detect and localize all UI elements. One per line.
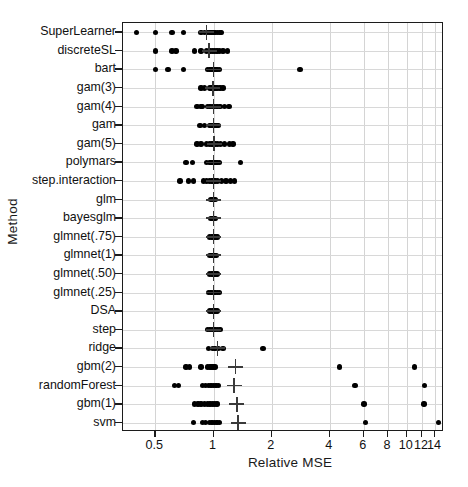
data-point <box>421 401 426 406</box>
data-point <box>183 160 188 165</box>
grid-line-vertical <box>272 23 273 430</box>
data-point <box>238 160 243 165</box>
mean-marker <box>205 81 220 96</box>
data-point <box>232 178 237 183</box>
x-axis-ticks: 0.512468101214 <box>122 431 443 457</box>
x-axis-tick <box>406 431 407 437</box>
data-point <box>230 141 235 146</box>
mean-marker <box>206 322 221 337</box>
relative-mse-dotplot: Method Relative MSE SuperLearnerdiscrete… <box>0 0 468 487</box>
y-axis-tick <box>115 50 122 51</box>
grid-line-horizontal <box>123 125 442 126</box>
grid-line-horizontal <box>123 181 442 182</box>
data-point <box>212 364 217 369</box>
y-axis-tick <box>115 254 122 255</box>
data-point <box>361 401 366 406</box>
mean-marker <box>206 229 221 244</box>
data-point <box>134 30 139 35</box>
x-axis-tick-label: 8 <box>383 438 390 452</box>
data-point <box>216 383 221 388</box>
data-point <box>153 67 158 72</box>
mean-marker <box>206 62 221 77</box>
y-axis-tick <box>115 347 122 348</box>
x-axis-tick <box>329 431 330 437</box>
data-point <box>177 178 182 183</box>
mean-marker <box>229 397 244 412</box>
mean-marker <box>228 359 243 374</box>
plot-area <box>122 22 443 431</box>
mean-marker <box>227 378 242 393</box>
data-point <box>169 30 174 35</box>
data-point <box>422 383 427 388</box>
grid-line-horizontal <box>123 423 442 424</box>
grid-line-horizontal <box>123 69 442 70</box>
data-point <box>173 48 178 53</box>
y-axis-labels: SuperLearnerdiscreteSLbartgam(3)gam(4)ga… <box>0 22 122 431</box>
data-point <box>220 85 225 90</box>
y-axis-tick-label-glmnet-25-: glmnet(.25) <box>53 285 122 299</box>
data-point <box>153 30 158 35</box>
mean-marker <box>206 155 221 170</box>
grid-line-horizontal <box>123 367 442 368</box>
grid-line-horizontal <box>123 386 442 387</box>
x-axis-tick-label: 10 <box>399 438 413 452</box>
data-point <box>153 48 158 53</box>
grid-line-horizontal <box>123 274 442 275</box>
grid-line-horizontal <box>123 162 442 163</box>
grid-line-vertical <box>422 23 423 430</box>
y-axis-tick-label-superlearner: SuperLearner <box>40 24 122 38</box>
x-axis-tick <box>434 431 435 437</box>
data-point <box>225 48 230 53</box>
data-point <box>187 364 192 369</box>
grid-line-horizontal <box>123 237 442 238</box>
x-axis-title: Relative MSE <box>120 455 460 470</box>
mean-marker <box>206 304 221 319</box>
data-point <box>363 420 368 425</box>
data-point <box>260 346 265 351</box>
x-axis-tick <box>154 431 155 437</box>
data-point <box>198 364 203 369</box>
y-axis-tick <box>115 180 122 181</box>
grid-line-vertical <box>155 23 156 430</box>
data-point <box>198 141 203 146</box>
x-axis-tick-label: 2 <box>267 438 274 452</box>
mean-marker <box>206 266 221 281</box>
y-axis-tick <box>115 366 122 367</box>
mean-marker <box>206 285 221 300</box>
grid-line-horizontal <box>123 200 442 201</box>
data-point <box>191 420 196 425</box>
data-point <box>337 364 342 369</box>
y-axis-tick <box>115 87 122 88</box>
grid-line-horizontal <box>123 144 442 145</box>
data-point <box>214 401 219 406</box>
y-axis-tick-label-randomforest: randomForest <box>39 378 122 392</box>
data-point <box>217 420 222 425</box>
grid-line-horizontal <box>123 107 442 108</box>
y-axis-tick <box>115 329 122 330</box>
data-point <box>192 48 197 53</box>
grid-line-vertical <box>364 23 365 430</box>
y-axis-tick-label-glmnet-50-: glmnet(.50) <box>53 266 122 280</box>
x-axis-tick <box>213 431 214 437</box>
y-axis-tick <box>115 143 122 144</box>
y-axis-tick <box>115 106 122 107</box>
grid-line-vertical <box>330 23 331 430</box>
grid-line-vertical <box>388 23 389 430</box>
mean-marker <box>206 118 221 133</box>
data-point <box>412 364 417 369</box>
mean-marker <box>231 415 246 430</box>
y-axis-tick <box>115 292 122 293</box>
data-point <box>436 420 441 425</box>
x-axis-tick-label: 12 <box>414 438 428 452</box>
data-point <box>297 67 302 72</box>
y-axis-tick <box>115 31 122 32</box>
x-axis-tick-label: 14 <box>427 438 441 452</box>
mean-marker <box>210 341 225 356</box>
y-axis-tick <box>115 310 122 311</box>
y-axis-tick <box>115 124 122 125</box>
x-axis-tick <box>421 431 422 437</box>
y-axis-tick-label-glmnet-75-: glmnet(.75) <box>53 229 122 243</box>
mean-marker <box>206 192 221 207</box>
data-point <box>226 104 231 109</box>
mean-marker <box>202 43 217 58</box>
